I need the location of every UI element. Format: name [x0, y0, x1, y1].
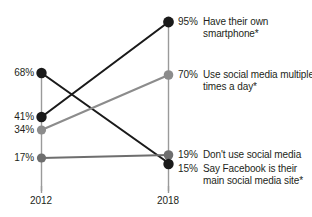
- right-label-facebook-main: Say Facebook is their main social media …: [203, 163, 307, 186]
- right-label-own-smartphone: Have their own smartphone*: [203, 16, 312, 39]
- datapoint-2018-dont-use-social: [164, 150, 174, 160]
- datapoint-2012-facebook-main: [36, 68, 46, 78]
- left-value-68: 68%: [0, 67, 34, 79]
- right-value-95: 95%: [178, 16, 204, 28]
- slope-chart: 68% 41% 34% 17% 95% 70% 19% 15% Have the…: [0, 0, 312, 217]
- axis-label-2012: 2012: [21, 195, 61, 207]
- datapoint-2018-social-multiple-times: [164, 70, 174, 80]
- right-value-70: 70%: [178, 69, 204, 81]
- datapoint-2018-facebook-main: [163, 159, 173, 169]
- left-value-41: 41%: [0, 111, 34, 123]
- series-line-dont-use-social: [42, 155, 169, 158]
- datapoint-2018-own-smartphone: [163, 17, 174, 28]
- datapoint-2012-own-smartphone: [36, 112, 46, 122]
- right-value-15: 15%: [178, 163, 204, 175]
- series-line-facebook-main: [42, 73, 169, 163]
- left-value-34: 34%: [0, 124, 34, 136]
- axis-label-2018: 2018: [148, 195, 188, 207]
- left-value-17: 17%: [0, 152, 34, 164]
- datapoint-2012-social-multiple-times: [37, 125, 46, 134]
- right-label-dont-use-social: Don't use social media: [203, 149, 312, 161]
- right-label-social-multiple-times: Use social media multiple times a day*: [203, 69, 312, 92]
- right-value-19: 19%: [178, 149, 204, 161]
- datapoint-2012-dont-use-social: [37, 153, 46, 162]
